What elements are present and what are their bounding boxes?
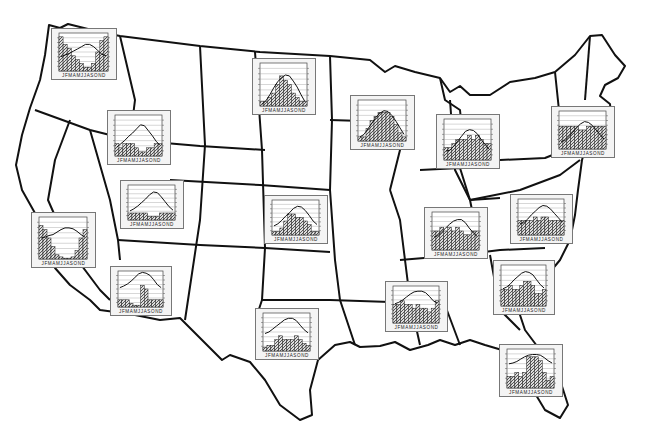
precip-bar bbox=[135, 148, 139, 156]
month-axis-labels: JFMAMJJASOND bbox=[256, 353, 318, 358]
precip-bar bbox=[507, 376, 511, 388]
climograph-florida: JFMAMJJASOND bbox=[499, 344, 563, 397]
precip-bar bbox=[280, 228, 284, 235]
precip-bar bbox=[290, 340, 294, 351]
month-axis-labels: JFMAMJJASOND bbox=[386, 325, 447, 330]
precip-bar bbox=[302, 343, 306, 351]
precip-bar bbox=[55, 255, 59, 259]
precip-bar bbox=[549, 221, 553, 235]
climograph-plot bbox=[351, 96, 414, 149]
precip-bar bbox=[405, 305, 409, 324]
precip-bar bbox=[560, 221, 564, 235]
precip-bar bbox=[550, 376, 554, 388]
precip-bar bbox=[460, 140, 464, 161]
month-axis-labels: JFMAMJJASOND bbox=[52, 73, 116, 78]
precip-bar bbox=[275, 340, 279, 351]
precip-bar bbox=[129, 303, 133, 307]
precip-bar bbox=[311, 232, 315, 236]
precip-bar bbox=[545, 217, 549, 235]
precip-bar bbox=[542, 372, 546, 388]
precip-bar bbox=[397, 305, 401, 324]
precip-bar bbox=[535, 294, 539, 306]
climograph-texas: JFMAMJJASOND bbox=[255, 308, 319, 360]
precip-bar bbox=[298, 340, 302, 351]
precip-bar bbox=[140, 213, 144, 220]
precip-bar bbox=[424, 308, 428, 323]
precip-bar bbox=[126, 300, 130, 307]
precip-bar bbox=[533, 217, 537, 235]
precip-bar bbox=[271, 345, 275, 351]
precip-bar bbox=[523, 372, 527, 388]
precip-bar bbox=[420, 308, 424, 323]
precip-bar bbox=[393, 305, 397, 324]
climograph-plot bbox=[52, 29, 116, 79]
climograph-kentucky-tennessee: JFMAMJJASOND bbox=[424, 207, 488, 259]
precip-bar bbox=[280, 76, 284, 106]
climograph-plot bbox=[500, 345, 562, 396]
precip-bar bbox=[444, 148, 448, 160]
precip-bar bbox=[63, 44, 67, 71]
precip-bar bbox=[520, 286, 524, 307]
precip-bar bbox=[456, 227, 460, 250]
precip-bar bbox=[416, 305, 420, 324]
precip-bar bbox=[475, 231, 479, 250]
precip-bar bbox=[431, 308, 435, 323]
precip-bar bbox=[487, 144, 491, 160]
precip-bar bbox=[362, 137, 366, 141]
climograph-wisconsin: JFMAMJJASOND bbox=[350, 95, 415, 150]
precip-bar bbox=[67, 48, 71, 71]
precip-bar bbox=[118, 300, 122, 307]
climograph-plot bbox=[111, 267, 171, 315]
precip-bar bbox=[284, 80, 288, 106]
precip-bar bbox=[272, 232, 276, 236]
precip-bar bbox=[556, 221, 560, 235]
precip-bar bbox=[468, 135, 472, 160]
precip-bar bbox=[272, 93, 276, 106]
precip-bar bbox=[144, 289, 148, 307]
precip-bar bbox=[435, 301, 439, 323]
precip-bar bbox=[148, 217, 152, 221]
climograph-arizona: JFMAMJJASOND bbox=[110, 266, 172, 316]
month-axis-labels: JFMAMJJASOND bbox=[552, 151, 614, 156]
precip-bar bbox=[538, 361, 542, 388]
climograph-plot bbox=[552, 107, 614, 157]
precip-bar bbox=[152, 300, 156, 307]
precip-bar bbox=[512, 290, 516, 306]
precip-bar bbox=[287, 340, 291, 351]
precip-bar bbox=[137, 305, 141, 307]
precip-bar bbox=[127, 144, 131, 156]
precip-bar bbox=[546, 380, 550, 388]
precip-bar bbox=[475, 135, 479, 160]
climograph-mid-atlantic: JFMAMJJASOND bbox=[510, 194, 573, 244]
precip-bar bbox=[531, 357, 535, 388]
precip-bar bbox=[292, 214, 296, 235]
precip-bar bbox=[571, 126, 575, 149]
month-axis-labels: JFMAMJJASOND bbox=[253, 108, 315, 113]
precip-bar bbox=[279, 336, 283, 351]
climograph-plot bbox=[253, 59, 315, 114]
precip-bar bbox=[539, 294, 543, 306]
precip-bar bbox=[448, 227, 452, 250]
precip-bar bbox=[537, 221, 541, 235]
month-axis-labels: JFMAMJJASOND bbox=[351, 143, 414, 148]
precip-bar bbox=[268, 97, 272, 106]
precip-bar bbox=[123, 144, 127, 156]
precip-bar bbox=[553, 221, 557, 235]
precip-bar bbox=[579, 130, 583, 149]
precip-bar bbox=[144, 213, 148, 220]
precip-bar bbox=[467, 235, 471, 250]
precip-bar bbox=[267, 345, 271, 351]
precip-bar bbox=[527, 281, 531, 306]
precip-bar bbox=[563, 126, 567, 149]
precip-bar bbox=[428, 312, 432, 323]
precip-bar bbox=[159, 300, 163, 307]
precip-bar bbox=[148, 300, 152, 307]
precip-bar bbox=[263, 347, 267, 351]
climograph-plot bbox=[437, 115, 499, 168]
precip-bar bbox=[590, 126, 594, 149]
precip-bar bbox=[412, 308, 416, 323]
precip-bar bbox=[315, 232, 319, 236]
climograph-utah-nevada: JFMAMJJASOND bbox=[120, 180, 184, 229]
precip-bar bbox=[276, 85, 280, 107]
precip-bar bbox=[559, 126, 563, 149]
